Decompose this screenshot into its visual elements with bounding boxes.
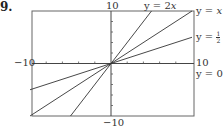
label-y-equals-2x: y = 2x: [144, 0, 176, 11]
y-max-label: 10: [106, 0, 119, 11]
x-max-label: 10: [196, 57, 209, 68]
label-y-equals-half-x: y = 12 x: [196, 31, 223, 44]
y-min-label: −10: [103, 117, 124, 128]
x-min-label: −10: [14, 57, 35, 68]
label-y-equals-x: y = x: [196, 5, 222, 16]
label-y-equals-0: y = 0: [196, 68, 223, 79]
fraction-one-half: 12: [216, 31, 220, 44]
